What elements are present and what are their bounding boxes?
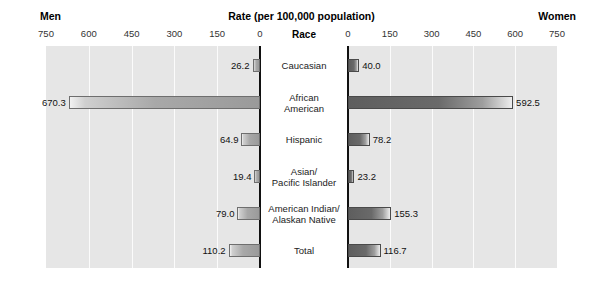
bar-men — [69, 96, 260, 109]
gridline — [217, 46, 218, 268]
gridline — [390, 46, 391, 268]
race-column-header: Race — [261, 28, 347, 44]
gridline — [515, 46, 516, 268]
bar-women — [348, 96, 513, 109]
bar-value-label: 670.3 — [42, 96, 66, 109]
diverging-bar-chart: Men Rate (per 100,000 population) Women … — [0, 0, 603, 290]
race-category-column: Race CaucasianAfricanAmericanHispanicAsi… — [261, 28, 347, 44]
axis-tick-label: 300 — [424, 28, 440, 39]
race-category-label: Asian/Pacific Islander — [261, 166, 347, 188]
axis-tick-label: 600 — [81, 28, 97, 39]
bar-value-label: 26.2 — [231, 59, 250, 72]
race-category-label: American Indian/Alaskan Native — [261, 203, 347, 225]
axis-tick-label: 750 — [549, 28, 565, 39]
gridline — [432, 46, 433, 268]
women-header-label: Women — [538, 10, 576, 22]
race-category-label: Caucasian — [261, 60, 347, 71]
axis-tick-label: 150 — [209, 28, 225, 39]
bar-men — [253, 59, 260, 72]
axis-tick-label: 150 — [382, 28, 398, 39]
bar-value-label: 592.5 — [516, 96, 540, 109]
bar-women — [348, 133, 370, 146]
gridline — [132, 46, 133, 268]
gridline — [174, 46, 175, 268]
plot-area-women — [348, 46, 557, 268]
bar-value-label: 64.9 — [220, 133, 239, 146]
bar-value-label: 116.7 — [384, 244, 407, 257]
zero-axis-women — [347, 46, 349, 268]
axis-tick-label: 450 — [124, 28, 140, 39]
bar-women — [348, 59, 359, 72]
race-category-label: Total — [261, 245, 347, 256]
bar-men — [237, 207, 260, 220]
bar-value-label: 23.2 — [357, 170, 376, 183]
chart-title: Rate (per 100,000 population) — [0, 10, 603, 22]
bar-men — [241, 133, 260, 146]
axis-tick-label: 750 — [38, 28, 54, 39]
bar-women — [348, 170, 354, 183]
gridline — [473, 46, 474, 268]
bar-value-label: 79.0 — [216, 207, 235, 220]
bar-men — [254, 170, 260, 183]
bar-value-label: 110.2 — [202, 244, 225, 257]
bar-men — [229, 244, 260, 257]
bar-value-label: 40.0 — [362, 59, 381, 72]
axis-tick-label: 600 — [507, 28, 523, 39]
race-category-label: Hispanic — [261, 134, 347, 145]
zero-axis-men — [259, 46, 261, 268]
gridline — [89, 46, 90, 268]
plot-area-men — [46, 46, 260, 268]
race-category-label: AfricanAmerican — [261, 92, 347, 114]
bar-value-label: 78.2 — [373, 133, 392, 146]
bar-value-label: 155.3 — [394, 207, 418, 220]
axis-tick-label: 300 — [166, 28, 182, 39]
axis-tick-label: 450 — [465, 28, 481, 39]
bar-value-label: 19.4 — [233, 170, 252, 183]
bar-women — [348, 244, 381, 257]
bar-women — [348, 207, 391, 220]
